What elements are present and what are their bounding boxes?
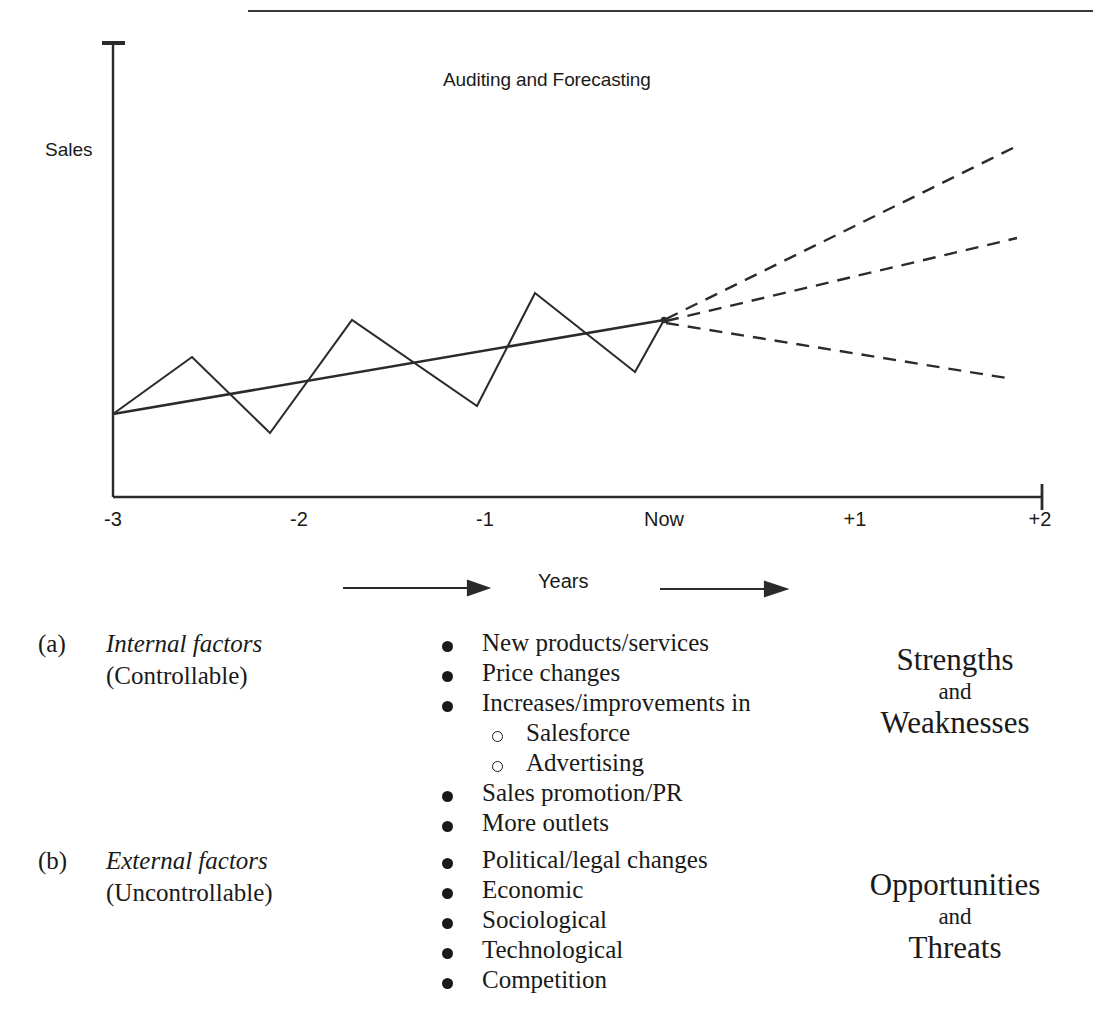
filled-bullet-icon	[442, 888, 453, 899]
list-item: Technological	[430, 935, 810, 965]
filled-bullet-icon	[442, 821, 453, 832]
list-item-text: Technological	[482, 936, 623, 963]
factor-name-internal: Internal factors (Controllable)	[106, 628, 262, 692]
list-item-text: Increases/improvements in	[482, 689, 751, 716]
filled-bullet-icon	[442, 671, 453, 682]
outcome-block-strengths-weaknesses: Strengths and Weaknesses	[810, 628, 1100, 741]
factor-subtitle-internal: (Controllable)	[106, 660, 262, 692]
factor-title-internal: Internal factors	[106, 628, 262, 660]
factor-list-internal: New products/services Price changes Incr…	[430, 628, 810, 838]
factor-subtitle-external: (Uncontrollable)	[106, 877, 273, 909]
outcome-opportunities: Opportunities	[810, 867, 1100, 903]
list-item: Sales promotion/PR	[430, 778, 810, 808]
filled-bullet-icon	[442, 701, 453, 712]
filled-bullet-icon	[442, 791, 453, 802]
hollow-bullet-icon	[492, 731, 503, 742]
list-item-text: New products/services	[482, 629, 709, 656]
list-item-text: Competition	[482, 966, 607, 993]
y-axis-label: Sales	[45, 139, 93, 161]
y-axis	[102, 42, 125, 497]
years-arrow-left	[343, 581, 488, 595]
outcome-block-opportunities-threats: Opportunities and Threats	[810, 845, 1100, 966]
years-arrow-right	[660, 582, 786, 596]
filled-bullet-icon	[442, 858, 453, 869]
list-item-text: Salesforce	[526, 719, 630, 746]
outcome-conjunction-a: and	[810, 678, 1100, 705]
sales-forecast-chart: Auditing and Forecasting Sales -3 -2 -1 …	[0, 0, 1103, 620]
factor-list-external: Political/legal changes Economic Sociolo…	[430, 845, 810, 995]
list-item-text: Sales promotion/PR	[482, 779, 683, 806]
factor-marker-a: (a)	[38, 628, 66, 660]
list-item-text: Political/legal changes	[482, 846, 708, 873]
series-forecast-expected	[666, 238, 1017, 321]
filled-bullet-icon	[442, 918, 453, 929]
outcome-weaknesses: Weaknesses	[810, 705, 1100, 741]
list-item: Competition	[430, 965, 810, 995]
list-item-text: Price changes	[482, 659, 620, 686]
hollow-bullet-icon	[492, 761, 503, 772]
list-item: Political/legal changes	[430, 845, 810, 875]
series-forecast-optimistic	[666, 148, 1013, 319]
x-tick-minus-2: -2	[290, 508, 308, 531]
list-item: Increases/improvements in	[430, 688, 810, 718]
outcome-threats: Threats	[810, 930, 1100, 966]
now-node-marker	[661, 317, 667, 323]
x-axis	[113, 484, 1043, 510]
series-actual-sales	[113, 293, 664, 433]
list-item: Sociological	[430, 905, 810, 935]
x-tick-minus-3: -3	[104, 508, 122, 531]
outcome-strengths: Strengths	[810, 642, 1100, 678]
list-item-sub: Advertising	[430, 748, 810, 778]
filled-bullet-icon	[442, 978, 453, 989]
list-item-text: Sociological	[482, 906, 607, 933]
list-item: Price changes	[430, 658, 810, 688]
factor-name-external: External factors (Uncontrollable)	[106, 845, 273, 909]
factor-marker-b: (b)	[38, 845, 67, 877]
outcome-conjunction-b: and	[810, 903, 1100, 930]
list-item-text: More outlets	[482, 809, 609, 836]
x-tick-plus-2: +2	[1029, 508, 1052, 531]
factor-title-external: External factors	[106, 845, 273, 877]
chart-canvas	[0, 0, 1103, 620]
x-tick-now: Now	[644, 508, 684, 531]
list-item-text: Advertising	[526, 749, 644, 776]
figure-page: Auditing and Forecasting Sales -3 -2 -1 …	[0, 0, 1103, 1032]
x-axis-label: Years	[538, 570, 588, 593]
list-item: New products/services	[430, 628, 810, 658]
list-item: Economic	[430, 875, 810, 905]
list-item-text: Economic	[482, 876, 583, 903]
list-item: More outlets	[430, 808, 810, 838]
x-tick-minus-1: -1	[476, 508, 494, 531]
series-forecast-pessimistic	[666, 323, 1013, 379]
chart-title: Auditing and Forecasting	[443, 69, 651, 91]
x-tick-plus-1: +1	[844, 508, 867, 531]
filled-bullet-icon	[442, 948, 453, 959]
filled-bullet-icon	[442, 641, 453, 652]
list-item-sub: Salesforce	[430, 718, 810, 748]
series-trend-line	[113, 320, 664, 414]
